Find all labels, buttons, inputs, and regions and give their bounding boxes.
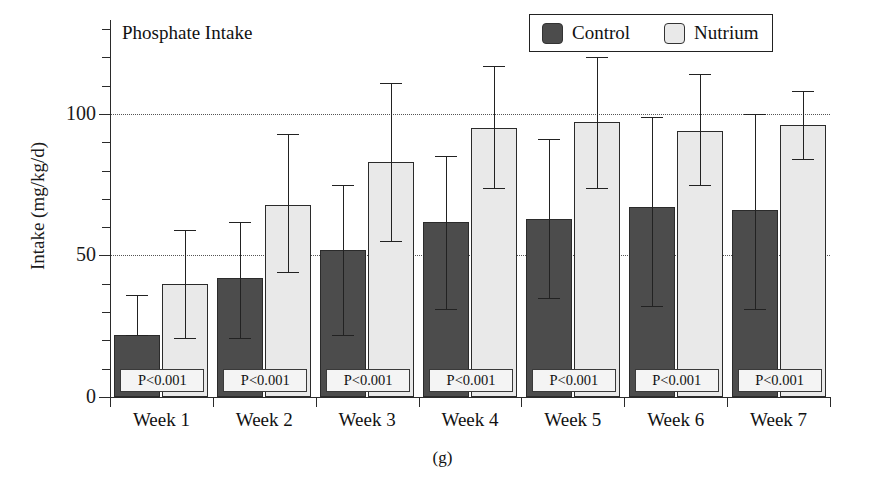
pvalue-label-week-7: P<0.001 [738, 369, 822, 392]
legend-swatch-control [542, 23, 563, 44]
y-tick-minor-130 [102, 29, 111, 30]
pvalue-label-week-3: P<0.001 [326, 369, 410, 392]
pvalue-label-week-6: P<0.001 [635, 369, 719, 392]
legend-item-nutrium[interactable]: Nutrium [664, 22, 758, 44]
y-axis-title: Intake (mg/kg/d) [27, 116, 49, 296]
y-tick-minor-110 [102, 86, 111, 87]
errorbar-cap-lower-control-week-3 [332, 335, 354, 336]
y-tick-minor-90 [102, 142, 111, 143]
pvalue-label-week-5: P<0.001 [532, 369, 616, 392]
bar-nutrium-week-7[interactable] [780, 125, 826, 397]
x-tick-4 [521, 397, 522, 407]
x-axis-line [110, 397, 830, 398]
y-tick-minor-30 [102, 312, 111, 313]
errorbar-control-week-2 [240, 222, 241, 338]
errorbar-control-week-3 [343, 185, 344, 335]
y-tick-label-0: 0 [52, 385, 96, 408]
chart-title: Phosphate Intake [122, 22, 252, 44]
legend-swatch-nutrium [664, 23, 685, 44]
errorbar-cap-upper-control-week-4 [435, 156, 457, 157]
errorbar-control-week-6 [652, 117, 653, 307]
x-tick-2 [316, 397, 317, 407]
errorbar-cap-lower-control-week-5 [538, 298, 560, 299]
y-axis-title-wrap: Intake (mg/kg/d) [18, 120, 58, 300]
y-tick-minor-80 [102, 171, 111, 172]
legend-item-control[interactable]: Control [542, 22, 630, 44]
pvalue-label-week-1: P<0.001 [120, 369, 204, 392]
errorbar-nutrium-week-3 [391, 83, 392, 241]
x-axis-label-week-1: Week 1 [110, 409, 213, 431]
y-tick-minor-120 [102, 57, 111, 58]
x-tick-3 [419, 397, 420, 407]
pvalue-label-week-4: P<0.001 [429, 369, 513, 392]
errorbar-nutrium-week-1 [185, 230, 186, 338]
y-tick-100 [99, 114, 111, 115]
errorbar-cap-upper-nutrium-week-6 [689, 74, 711, 75]
errorbar-cap-lower-nutrium-week-5 [586, 188, 608, 189]
x-axis-label-week-7: Week 7 [727, 409, 830, 431]
y-tick-minor-40 [102, 284, 111, 285]
figure-caption: (g) [0, 448, 885, 468]
errorbar-cap-lower-nutrium-week-3 [380, 241, 402, 242]
y-axis-line [110, 20, 111, 398]
errorbar-cap-upper-control-week-7 [744, 114, 766, 115]
errorbar-cap-upper-control-week-3 [332, 185, 354, 186]
x-tick-6 [727, 397, 728, 407]
figure-panel: Phosphate Intake Control Nutrium Intake … [0, 0, 885, 496]
errorbar-control-week-1 [137, 295, 138, 335]
x-axis-label-week-5: Week 5 [521, 409, 624, 431]
errorbar-cap-upper-control-week-5 [538, 139, 560, 140]
x-axis-label-week-3: Week 3 [316, 409, 419, 431]
y-tick-minor-10 [102, 369, 111, 370]
x-tick-1 [213, 397, 214, 407]
errorbar-cap-upper-nutrium-week-3 [380, 83, 402, 84]
y-tick-minor-60 [102, 227, 111, 228]
errorbar-cap-lower-control-week-1 [126, 335, 148, 336]
errorbar-cap-lower-nutrium-week-2 [277, 272, 299, 273]
errorbar-cap-lower-nutrium-week-1 [174, 338, 196, 339]
x-tick-end [830, 397, 831, 407]
errorbar-nutrium-week-6 [700, 74, 701, 184]
errorbar-cap-upper-nutrium-week-2 [277, 134, 299, 135]
errorbar-cap-lower-nutrium-week-4 [483, 188, 505, 189]
x-axis-label-week-6: Week 6 [624, 409, 727, 431]
gridline-100 [111, 114, 830, 115]
pvalue-label-week-2: P<0.001 [223, 369, 307, 392]
errorbar-control-week-4 [446, 156, 447, 309]
legend: Control Nutrium [529, 14, 773, 52]
errorbar-cap-lower-control-week-7 [744, 309, 766, 310]
errorbar-cap-upper-control-week-6 [641, 117, 663, 118]
errorbar-cap-lower-nutrium-week-6 [689, 185, 711, 186]
errorbar-cap-upper-nutrium-week-4 [483, 66, 505, 67]
y-tick-minor-70 [102, 199, 111, 200]
errorbar-nutrium-week-7 [803, 91, 804, 159]
y-tick-50 [99, 255, 111, 256]
errorbar-cap-lower-control-week-2 [229, 338, 251, 339]
errorbar-control-week-7 [755, 114, 756, 309]
errorbar-cap-upper-control-week-1 [126, 295, 148, 296]
errorbar-cap-lower-control-week-4 [435, 309, 457, 310]
y-tick-label-50: 50 [52, 243, 96, 266]
legend-label-nutrium: Nutrium [694, 22, 758, 44]
x-tick-5 [624, 397, 625, 407]
errorbar-cap-upper-nutrium-week-5 [586, 57, 608, 58]
errorbar-cap-upper-nutrium-week-7 [792, 91, 814, 92]
y-tick-minor-20 [102, 340, 111, 341]
x-axis-label-week-4: Week 4 [419, 409, 522, 431]
errorbar-cap-upper-control-week-2 [229, 222, 251, 223]
errorbar-nutrium-week-5 [597, 57, 598, 187]
errorbar-control-week-5 [549, 139, 550, 297]
errorbar-nutrium-week-4 [494, 66, 495, 188]
y-tick-label-100: 100 [52, 102, 96, 125]
x-tick-0 [110, 397, 111, 407]
errorbar-cap-lower-nutrium-week-7 [792, 159, 814, 160]
errorbar-nutrium-week-2 [288, 134, 289, 273]
errorbar-cap-lower-control-week-6 [641, 306, 663, 307]
x-axis-label-week-2: Week 2 [213, 409, 316, 431]
errorbar-cap-upper-nutrium-week-1 [174, 230, 196, 231]
legend-label-control: Control [572, 22, 630, 44]
